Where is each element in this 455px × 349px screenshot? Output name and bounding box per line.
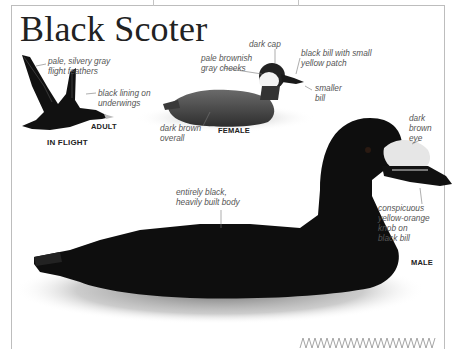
female-caption: FEMALE bbox=[218, 126, 250, 135]
annotation-female-bill: black bill with small yellow patch bbox=[301, 48, 372, 68]
adult-caption: ADULT bbox=[91, 122, 117, 131]
annotation-dark-cap: dark cap bbox=[249, 39, 281, 49]
annotation-smaller-bill: smaller bill bbox=[315, 83, 342, 103]
annotation-eye: dark brown eye bbox=[409, 113, 432, 143]
annotation-body: entirely black, heavily built body bbox=[176, 187, 240, 207]
annotation-bill-knob: conspicuous yellow-orange knob on black … bbox=[378, 203, 430, 243]
annotation-flight-feathers: pale, silvery gray flight feathers bbox=[48, 56, 110, 76]
male-caption: MALE bbox=[411, 258, 433, 267]
zigzag-decoration bbox=[300, 338, 435, 348]
annotation-dark-brown: dark brown overall bbox=[160, 123, 201, 143]
annotation-cheeks: pale brownish gray cheeks bbox=[201, 53, 252, 73]
in-flight-caption: IN FLIGHT bbox=[47, 138, 88, 147]
annotation-underwings: black lining on underwings bbox=[98, 88, 151, 108]
